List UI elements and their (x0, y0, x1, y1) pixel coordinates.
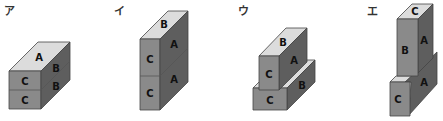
figure-i-top-letter: B (160, 19, 168, 30)
figure-i-front-upper-letter: C (146, 54, 153, 65)
figure-i-front-lower-letter: C (146, 88, 153, 99)
figure-u: B C C A B (253, 28, 315, 110)
figure-a-side-upper-letter: B (52, 63, 60, 74)
figure-u-front-lower-letter: C (266, 95, 273, 106)
figure-a-front-lower-letter: C (21, 95, 28, 106)
figure-e-front-lower-letter: C (394, 94, 401, 105)
figure-i: B C C A A (140, 11, 188, 110)
figure-a: A C C B B (9, 42, 70, 109)
figure-a-side-lower-letter: B (52, 81, 60, 92)
figure-e: C B C A A (390, 4, 437, 116)
figure-a-top-letter: A (35, 52, 43, 63)
figure-a-front-upper-letter: C (21, 76, 28, 87)
figure-e-side-lower-letter: A (420, 77, 428, 88)
figure-u-top-letter: B (279, 37, 287, 48)
figure-u-side-lower-letter: B (298, 80, 306, 91)
figure-u-side-upper-letter: A (290, 55, 298, 66)
figure-i-side-lower-letter: A (170, 74, 178, 85)
figure-i-side-upper-letter: A (170, 39, 178, 50)
figure-e-front-upper-letter: B (401, 45, 409, 56)
figure-u-front-upper-letter: C (265, 69, 272, 80)
figure-i-front-face (140, 39, 160, 110)
figure-e-side-upper-letter: A (420, 35, 428, 46)
figures-canvas: A C C B B B C C A A B C C A B (0, 0, 443, 121)
figure-e-top-letter: C (411, 6, 418, 17)
